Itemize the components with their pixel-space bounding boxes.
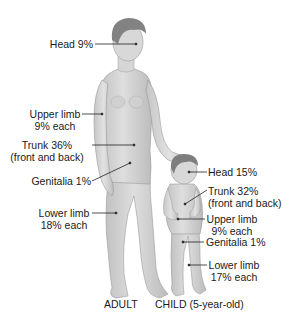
- child-trunk-label: Trunk 32% (front and back): [208, 185, 282, 209]
- adult-trunk-line2: (front and back): [2, 151, 92, 163]
- adult-trunk-line1: Trunk 36%: [2, 139, 92, 151]
- adult-genitalia-label: Genitalia 1%: [10, 175, 91, 187]
- adult-head-label: Head 9%: [30, 38, 93, 50]
- child-head-text: Head 15%: [208, 166, 257, 178]
- child-lower-limb-label: Lower limb 17% each: [206, 259, 262, 283]
- child-lower-limb-line2: 17% each: [206, 271, 262, 283]
- adult-upper-limb-line2: 9% each: [20, 120, 90, 132]
- child-genitalia-text: Genitalia 1%: [206, 236, 266, 248]
- child-genitalia-label: Genitalia 1%: [206, 236, 266, 248]
- child-caption: CHILD (5-year-old): [155, 298, 244, 310]
- child-lower-limb-line1: Lower limb: [206, 259, 262, 271]
- child-figure: [164, 154, 207, 296]
- adult-upper-limb-line1: Upper limb: [20, 108, 90, 120]
- adult-lower-limb-label: Lower limb 18% each: [34, 207, 94, 231]
- child-head-label: Head 15%: [208, 166, 257, 178]
- body-surface-area-diagram: Head 9% Upper limb 9% each Trunk 36% (fr…: [0, 0, 299, 324]
- child-upper-limb-label: Upper limb 9% each: [204, 213, 260, 237]
- adult-genitalia-text: Genitalia 1%: [31, 175, 91, 187]
- adult-lower-limb-line1: Lower limb: [34, 207, 94, 219]
- adult-caption: ADULT: [104, 298, 138, 310]
- child-upper-limb-line1: Upper limb: [204, 213, 260, 225]
- adult-trunk-label: Trunk 36% (front and back): [2, 139, 92, 163]
- child-trunk-line2: (front and back): [208, 197, 282, 209]
- adult-head-text: Head 9%: [50, 38, 93, 50]
- adult-lower-limb-line2: 18% each: [34, 219, 94, 231]
- child-trunk-line1: Trunk 32%: [208, 185, 282, 197]
- adult-upper-limb-label: Upper limb 9% each: [20, 108, 90, 132]
